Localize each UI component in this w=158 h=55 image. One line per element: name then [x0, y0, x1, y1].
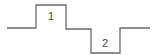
- waveform-line: [7, 5, 150, 53]
- pulse-label-2: 2: [102, 37, 108, 49]
- pulse-label-1: 1: [48, 10, 54, 22]
- waveform-canvas: 1 2: [0, 0, 158, 55]
